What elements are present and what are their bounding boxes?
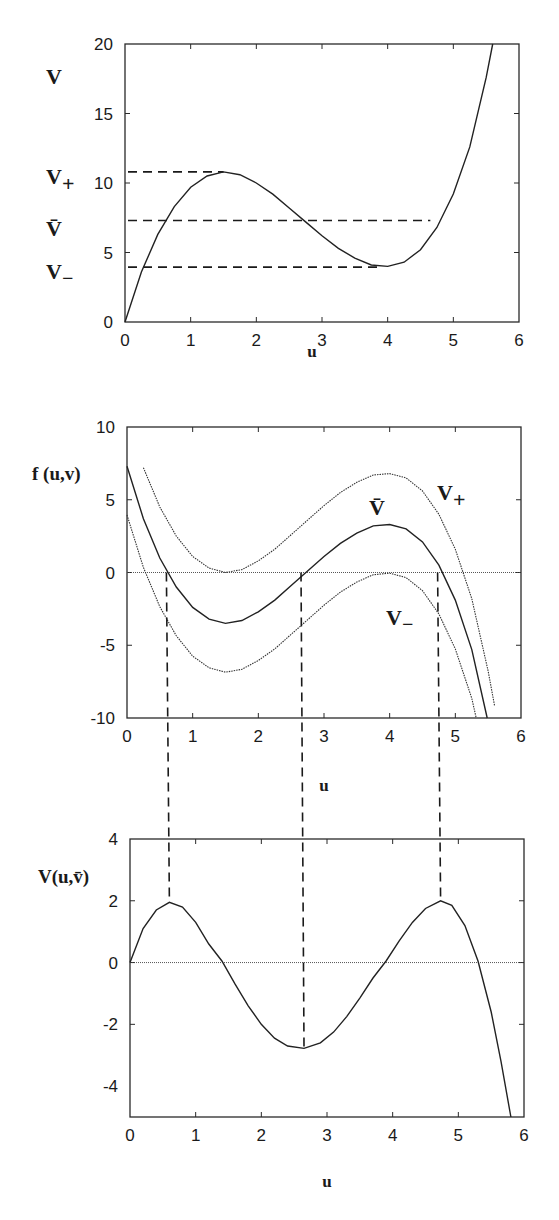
vertical-dashed-line	[301, 573, 304, 1049]
panel-middle: 0123456-10-50510 f (u,v) V+ V̄ V− u	[32, 418, 526, 795]
x-tick-label: 6	[519, 1126, 528, 1145]
y-tick-label: 2	[109, 892, 118, 911]
x-tick-label: 4	[388, 1126, 397, 1145]
f-curve	[127, 515, 476, 718]
label-v-minus: V−	[46, 259, 73, 289]
x-tick-label: 6	[516, 727, 525, 746]
curve-label-v-plus: V+	[437, 480, 465, 512]
x-tick-label: 3	[317, 331, 326, 350]
vertical-dashed-connectors	[166, 573, 440, 1049]
y-tick-label: 5	[104, 244, 113, 263]
x-tick-label: 5	[454, 1126, 463, 1145]
curve-label-v-minus: V−	[386, 605, 413, 635]
ticks-middle: 0123456-10-50510	[90, 418, 525, 746]
panel-top: 012345605101520 V V+ V̄ V− u	[46, 35, 524, 361]
x-tick-label: 1	[186, 331, 195, 350]
y-tick-label: 15	[94, 105, 113, 124]
y-tick-label: 5	[106, 491, 115, 510]
x-tick-label: 0	[122, 727, 131, 746]
y-tick-label: -10	[90, 709, 115, 728]
panel-bottom: 0123456-4-2024 V(u,v̄) u	[38, 830, 529, 1191]
reference-lines-top	[128, 172, 430, 267]
x-axis-label-bottom: u	[322, 1172, 331, 1191]
y-tick-label: 10	[96, 418, 115, 437]
x-tick-label: 2	[254, 727, 263, 746]
ticks-top: 012345605101520	[94, 35, 524, 350]
x-tick-label: 2	[257, 1126, 266, 1145]
y-axis-label-middle: f (u,v)	[32, 463, 81, 485]
y-axis-label-bottom: V(u,v̄)	[38, 866, 89, 888]
x-tick-label: 5	[451, 727, 460, 746]
y-axis-label-top: V	[46, 64, 62, 89]
x-tick-label: 4	[383, 331, 392, 350]
x-tick-label: 3	[319, 727, 328, 746]
label-v-bar: V̄	[46, 216, 62, 241]
y-tick-label: -2	[103, 1015, 118, 1034]
x-tick-label: 0	[120, 331, 129, 350]
y-tick-label: 20	[94, 35, 113, 54]
x-tick-label: 1	[191, 1126, 200, 1145]
x-tick-label: 6	[514, 331, 523, 350]
nullcline-curve	[125, 44, 493, 322]
y-tick-label: -5	[100, 636, 115, 655]
y-tick-label: 4	[109, 830, 118, 849]
y-tick-label: 0	[109, 954, 118, 973]
y-tick-label: 0	[104, 313, 113, 332]
plot-frame-bottom	[130, 839, 524, 1117]
x-axis-label-middle: u	[319, 776, 328, 795]
curve-label-v-bar: V̄	[369, 495, 385, 520]
y-tick-label: -4	[103, 1077, 118, 1096]
vertical-dashed-line	[438, 573, 441, 901]
y-tick-label: 0	[106, 564, 115, 583]
x-tick-label: 4	[385, 727, 394, 746]
figure: 012345605101520 V V+ V̄ V− u 0123456-10-…	[0, 0, 559, 1220]
y-tick-label: 10	[94, 174, 113, 193]
ticks-bottom: 0123456-4-2024	[103, 830, 529, 1145]
label-v-plus: V+	[46, 164, 74, 196]
x-tick-label: 5	[449, 331, 458, 350]
potential-curve	[130, 901, 511, 1117]
plot-frame-top	[125, 44, 519, 322]
x-axis-label-top: u	[307, 342, 316, 361]
x-tick-label: 3	[322, 1126, 331, 1145]
f-curve	[127, 466, 487, 718]
x-tick-label: 0	[125, 1126, 134, 1145]
x-tick-label: 2	[252, 331, 261, 350]
x-tick-label: 1	[188, 727, 197, 746]
